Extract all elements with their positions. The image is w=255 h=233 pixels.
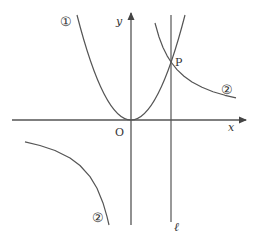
hyperbola-left-label: ② — [92, 210, 104, 225]
x-axis-label: x — [228, 121, 235, 134]
origin-label: O — [115, 126, 124, 139]
parabola-label: ① — [60, 14, 72, 29]
point-p-label: P — [175, 56, 183, 69]
coordinate-plane: y x O ① ② ② P ℓ — [0, 0, 255, 233]
line-l-label: ℓ — [174, 220, 179, 233]
y-axis-label: y — [115, 15, 123, 28]
hyperbola-right-label: ② — [221, 82, 233, 97]
